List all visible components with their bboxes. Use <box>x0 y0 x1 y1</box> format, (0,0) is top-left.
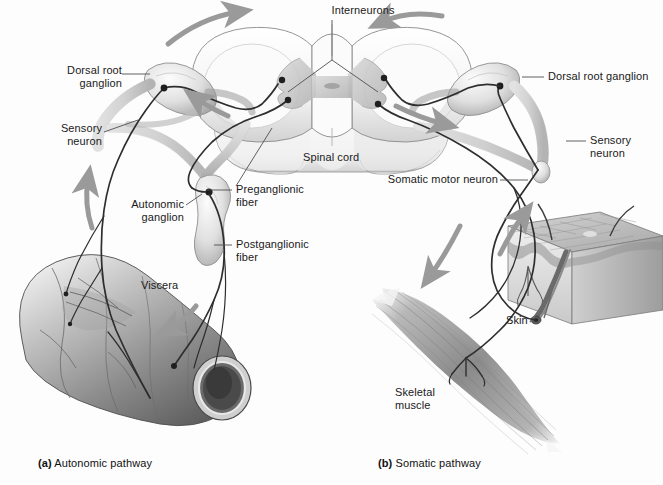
viscera-intestine <box>20 255 251 426</box>
caption-a-tag: (a) <box>38 457 52 469</box>
label-skin: Skin <box>506 314 556 327</box>
label-preganglionic-fiber: Preganglionic fiber <box>236 183 346 209</box>
label-interneurons: Interneurons <box>303 4 423 17</box>
caption-panel-b: (b) Somatic pathway <box>378 457 481 469</box>
label-viscera: Viscera <box>141 279 211 292</box>
autonomic-ganglion <box>194 175 230 266</box>
caption-b-tag: (b) <box>378 457 392 469</box>
label-somatic-motor-neuron: Somatic motor neuron <box>382 173 498 186</box>
caption-a-text: Autonomic pathway <box>54 457 152 469</box>
label-postganglionic-fiber: Postganglionic fiber <box>236 238 346 264</box>
caption-panel-a: (a) Autonomic pathway <box>38 457 152 469</box>
skeletal-muscle <box>372 288 562 454</box>
arrow-afferent-left-up <box>87 180 92 228</box>
label-dorsal-root-ganglion-left: Dorsal root ganglion <box>22 64 122 90</box>
label-sensory-neuron-right: Sensory neuron <box>590 134 660 160</box>
label-spinal-cord: Spinal cord <box>303 151 393 164</box>
label-dorsal-root-ganglion-right: Dorsal root ganglion <box>548 70 663 83</box>
drg-soma-left <box>161 85 168 92</box>
figure-canvas: Dorsal root ganglion Sensory neuron Auto… <box>0 0 663 485</box>
caption-b-text: Somatic pathway <box>396 457 481 469</box>
label-skeletal-muscle: Skeletal muscle <box>395 386 475 412</box>
label-sensory-neuron-left: Sensory neuron <box>22 122 102 148</box>
arrow-efferent-right-down <box>430 226 460 276</box>
label-autonomic-ganglion: Autonomic ganglion <box>96 198 184 224</box>
